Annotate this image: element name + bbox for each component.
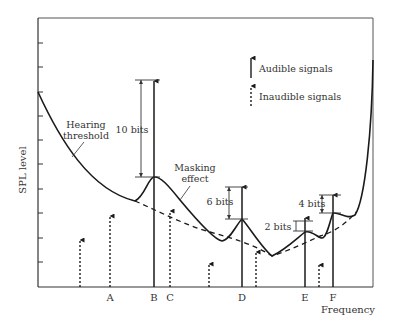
legend-audible-label: Audible signals xyxy=(258,63,333,74)
masking-effect-label: Masking effect xyxy=(174,162,215,200)
bits-label-D: 6 bits xyxy=(207,196,234,207)
bits-label-B: 10 bits xyxy=(116,124,149,135)
hearing-threshold-label: Hearing threshold xyxy=(63,119,109,157)
svg-text:threshold: threshold xyxy=(63,130,109,141)
svg-text:Hearing: Hearing xyxy=(66,119,105,130)
legend: Audible signals Inaudible signals xyxy=(251,58,341,106)
signal-label-D: D xyxy=(238,292,246,303)
plot-frame xyxy=(38,18,373,287)
y-axis-ticks xyxy=(38,43,43,262)
signal-labels: A B C D E F xyxy=(105,292,336,303)
y-axis-label: SPL level xyxy=(17,146,28,193)
signal-label-E: E xyxy=(301,292,308,303)
signal-label-F: F xyxy=(330,292,337,303)
x-axis-label: Frequency xyxy=(321,304,375,315)
bit-bracket-E xyxy=(293,221,313,231)
legend-inaudible-label: Inaudible signals xyxy=(259,91,341,102)
signal-label-C: C xyxy=(166,292,174,303)
svg-text:effect: effect xyxy=(181,173,208,184)
audible-signals xyxy=(154,81,333,287)
signal-label-A: A xyxy=(105,292,114,303)
bits-label-F: 4 bits xyxy=(299,198,326,209)
svg-text:Masking: Masking xyxy=(174,162,215,173)
masked-threshold-curve xyxy=(38,60,373,256)
signal-label-B: B xyxy=(150,292,157,303)
bits-label-E: 2 bits xyxy=(265,221,292,232)
psychoacoustic-masking-diagram: SPL level Frequency Hearing threshold Ma… xyxy=(0,0,395,331)
